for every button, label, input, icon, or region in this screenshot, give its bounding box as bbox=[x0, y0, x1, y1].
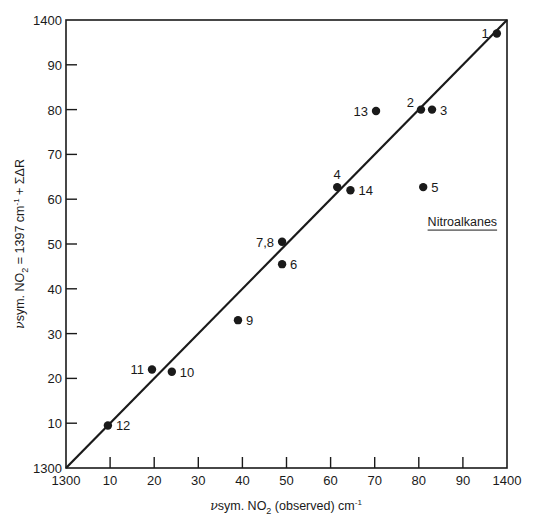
point-label: 7,8 bbox=[256, 235, 274, 250]
point-label: 9 bbox=[246, 313, 253, 328]
y-tick-label: 20 bbox=[48, 371, 62, 386]
x-tick-label: 1400 bbox=[493, 473, 522, 488]
point-label: 6 bbox=[290, 257, 297, 272]
y-tick-label: 80 bbox=[48, 103, 62, 118]
data-point: 4 bbox=[333, 167, 341, 191]
point-label: 4 bbox=[334, 167, 341, 182]
reference-line bbox=[66, 20, 507, 468]
data-point: 5 bbox=[419, 180, 438, 195]
point-marker bbox=[168, 367, 176, 375]
data-point: 13 bbox=[354, 104, 381, 119]
point-marker bbox=[493, 29, 501, 37]
y-tick-label: 50 bbox=[48, 237, 62, 252]
point-label: 1 bbox=[482, 26, 489, 41]
data-point: 10 bbox=[168, 365, 195, 380]
point-label: 3 bbox=[440, 103, 447, 118]
data-point: 14 bbox=[346, 183, 373, 198]
point-label: 13 bbox=[354, 104, 368, 119]
x-tick-label: 40 bbox=[235, 473, 249, 488]
point-marker bbox=[234, 316, 242, 324]
x-tick-label: 70 bbox=[367, 473, 381, 488]
x-tick-label: 90 bbox=[456, 473, 470, 488]
x-axis-ticks: 13001020304050607080901400 bbox=[52, 457, 522, 488]
point-marker bbox=[104, 421, 112, 429]
axes bbox=[66, 20, 507, 468]
point-marker bbox=[333, 183, 341, 191]
x-axis-title: νsym. NO2 (observed) cm-1 bbox=[210, 498, 362, 516]
y-tick-label: 90 bbox=[48, 58, 62, 73]
y-tick-label: 1400 bbox=[33, 13, 62, 28]
data-point: 9 bbox=[234, 313, 253, 328]
point-label: 10 bbox=[180, 365, 194, 380]
y-tick-label: 10 bbox=[48, 416, 62, 431]
y-tick-label: 30 bbox=[48, 327, 62, 342]
y-axis-title: νsym. NO2 = 1397 cm-1 + ΣΔR bbox=[12, 159, 30, 329]
y-tick-label: 60 bbox=[48, 192, 62, 207]
data-point: 11 bbox=[130, 362, 156, 377]
data-point: 3 bbox=[428, 103, 447, 118]
y-tick-label: 1300 bbox=[33, 461, 62, 476]
x-tick-label: 60 bbox=[323, 473, 337, 488]
point-label: 12 bbox=[116, 418, 130, 433]
point-label: 14 bbox=[358, 183, 372, 198]
scatter-chart: 13001020304050607080901400 1300102030405… bbox=[0, 0, 534, 524]
point-marker bbox=[372, 107, 380, 115]
point-label: 5 bbox=[431, 180, 438, 195]
y-axis-ticks: 13001020304050607080901400 bbox=[33, 13, 77, 476]
y-tick-label: 70 bbox=[48, 147, 62, 162]
point-label: 11 bbox=[130, 362, 144, 377]
data-point: 6 bbox=[278, 257, 297, 272]
point-label: 2 bbox=[407, 95, 414, 110]
data-point: 12 bbox=[104, 418, 131, 433]
annotations: Nitroalkanes bbox=[428, 215, 497, 230]
y-tick-label: 40 bbox=[48, 282, 62, 297]
x-tick-label: 50 bbox=[279, 473, 293, 488]
point-marker bbox=[278, 260, 286, 268]
series-annotation: Nitroalkanes bbox=[428, 215, 497, 229]
point-marker bbox=[148, 365, 156, 373]
x-tick-label: 20 bbox=[147, 473, 161, 488]
x-tick-label: 30 bbox=[191, 473, 205, 488]
point-marker bbox=[417, 105, 425, 113]
point-marker bbox=[419, 183, 427, 191]
point-marker bbox=[278, 238, 286, 246]
point-marker bbox=[428, 105, 436, 113]
x-tick-label: 10 bbox=[103, 473, 117, 488]
x-tick-label: 80 bbox=[412, 473, 426, 488]
point-marker bbox=[346, 186, 354, 194]
